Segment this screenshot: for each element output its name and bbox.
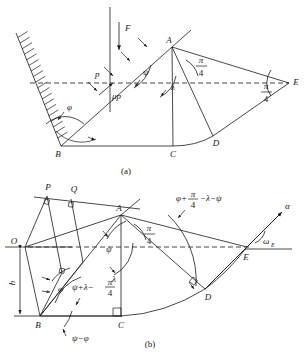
caption-b: (b) [145,339,156,349]
svg-text:π: π [147,223,152,233]
arc-CD-a [173,136,213,146]
segment-DE-a [213,83,289,136]
segment-OA-b [25,215,121,247]
angle-tick-phi-b [42,277,50,280]
arc-CD-b [121,289,205,316]
point-label-A-a: A [165,35,172,45]
angle-tick-lambda-b [110,267,115,273]
angle-label-pi4-b: π 4 [144,223,155,246]
angle-tick-psiphi-b [63,329,66,336]
line-PQ-a-b [34,197,140,209]
angle-arc-psi-b [107,221,126,239]
point-label-P-b: P [44,182,51,192]
point-label-B-a: B [55,149,61,159]
svg-text:4: 4 [191,200,196,210]
segment-OB-b [25,247,40,316]
angle-tick-psilam-b [76,298,80,305]
point-label-C-b: C [118,320,125,330]
point-label-E-a: E [292,77,299,87]
perp-from-P-b [47,196,62,273]
angle-tick-phi2-b [42,291,50,292]
angle-label-alpha-b: α [285,201,290,211]
geometry-figure-svg: A B C D E F p μp φ ψ λ π 4 π 4 (a) P Q O… [0,0,307,364]
panel-a-geometry [16,7,289,146]
point-label-C-a: C [170,149,177,159]
point-label-D-b: D [204,292,212,302]
svg-text:π: π [264,81,269,91]
angle-label-psi-a: ψ [143,67,149,77]
svg-text:4: 4 [108,288,113,298]
panel-b-geometry [5,196,292,336]
expr-phi-pi4-lambda-psi-b: φ+ π 4 −λ−ψ [176,189,222,210]
angle-arc-top-b [168,215,196,286]
svg-text:π: π [108,277,113,287]
caption-a: (a) [121,166,131,176]
svg-text:4: 4 [199,68,204,78]
alpha-ray-b [205,212,282,289]
segment-AC-a [172,47,173,146]
svg-text:π: π [191,189,196,199]
figure-container: A B C D E F p μp φ ψ λ π 4 π 4 (a) P Q O… [0,0,307,364]
svg-text:φ+: φ+ [176,193,187,203]
point-label-E-b: E [242,252,249,262]
angle-label-phi-b: φ [58,284,63,294]
svg-text:E: E [270,242,275,248]
svg-text:ω: ω [263,236,269,246]
angle-label-omegaE-b: ω E [263,236,275,248]
angle-arc-lambda-b [114,243,133,275]
wall-hatching-a [18,32,67,139]
point-label-Q-b: Q [71,184,78,194]
wall-line-a [16,33,61,146]
pressure-label-p-a: p [94,69,100,79]
angle-tick-top-b [178,210,185,218]
svg-text:4: 4 [264,94,269,104]
svg-text:−λ−ψ: −λ−ψ [200,193,222,203]
right-angle-Q-b [68,202,73,207]
segment-AD-a [172,47,213,136]
expr-psi-lambda-pi4-b: ψ+λ− π 4 [72,277,115,298]
height-label-h-b: h [7,280,17,285]
point-label-A-b: A [115,203,122,213]
force-label-F-a: F [124,23,131,33]
point-label-B-b: B [35,320,41,330]
angle-label-psi-b: ψ [106,244,112,254]
angle-tick-phi2-a [88,137,95,140]
angle-arc-psiphi-b [64,311,72,327]
angle-label-pi4-E-a: π 4 [261,81,272,104]
perp-from-Q-b [71,199,83,262]
point-label-O-b: O [11,236,18,246]
svg-text:ψ+λ−: ψ+λ− [72,282,94,292]
angle-tick-phi-a [58,112,64,120]
segment-AE-a [172,47,289,83]
svg-text:π: π [199,55,204,65]
point-label-D-a: D [212,138,220,148]
angle-label-phi-a: φ [67,102,72,112]
angle-label-lambda-a: λ [170,82,175,92]
angle-arc-pi4-A-a [186,60,198,76]
segment-AE-b [121,215,247,247]
right-angle-C-b [113,308,121,316]
svg-text:4: 4 [147,236,152,246]
expr-psi-minus-phi-b: ψ−φ [72,333,89,343]
friction-label-mup-a: μp [111,91,122,101]
friction-arrow-a [99,83,113,95]
segment-A-ext-a [172,30,191,47]
